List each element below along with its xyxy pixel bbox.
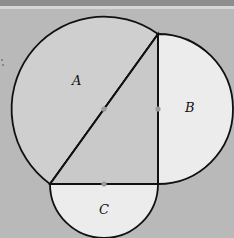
midpoint-dot-b	[155, 106, 160, 111]
edge-mark	[2, 64, 4, 66]
midpoint-dot-c	[101, 181, 106, 186]
semicircle-b	[158, 34, 233, 184]
label-b: B	[184, 100, 195, 115]
geometry-diagram: A B C	[0, 0, 234, 238]
edge-mark	[1, 59, 3, 61]
label-a: A	[71, 73, 81, 88]
midpoint-dot-a	[101, 106, 106, 111]
label-c: C	[99, 202, 109, 217]
